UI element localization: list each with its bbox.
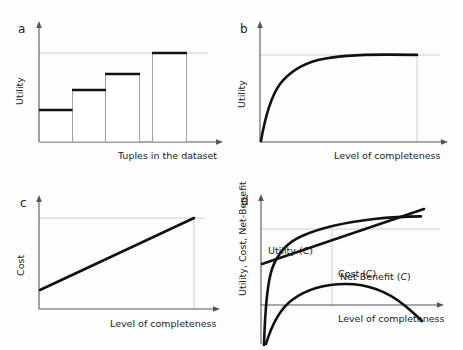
panel-a-plot: a Utility Tuples in the dataset (0, 0, 232, 175)
panel-d-x-axis-arrow (437, 302, 444, 308)
bar-1 (40, 110, 73, 142)
panel-c-x-axis-arrow (213, 306, 220, 312)
panel-b-plot: b Utility Level of completeness (228, 0, 463, 175)
bar-4 (153, 53, 187, 142)
panel-c-plot: c Cost Level of completeness (0, 172, 232, 350)
panel-c-letter: c (20, 196, 27, 210)
panel-c-cost-line (40, 218, 194, 290)
panel-c-y-label: Cost (15, 255, 26, 276)
bar-3 (106, 74, 140, 142)
panel-c-y-axis-arrow (36, 195, 42, 202)
panel-a-x-label: Tuples in the dataset (117, 150, 217, 161)
panel-a: a Utility Tuples in the dataset (0, 0, 232, 175)
panel-a-y-label: Utility (14, 77, 25, 105)
panel-c-x-label: Level of completeness (110, 318, 216, 329)
panel-a-x-axis-arrow (216, 139, 223, 145)
panel-b-y-axis-arrow (257, 21, 263, 28)
panel-d-plot: d Utility (C) Cost (C) Net Benefit (C) U… (228, 172, 463, 350)
panel-a-letter: a (18, 22, 25, 36)
panel-d-y-label: Utility, Cost, Net-Benefit (237, 181, 248, 296)
panel-d-utility-label: Utility (C) (268, 245, 313, 256)
panel-d-net-benefit-label: Net Benefit (C) (340, 271, 411, 282)
panel-c: c Cost Level of completeness (0, 172, 232, 350)
panel-d-y-axis-arrow (258, 194, 264, 201)
panel-d: d Utility (C) Cost (C) Net Benefit (C) U… (228, 172, 463, 350)
panel-b-x-label: Level of completeness (334, 150, 440, 161)
figure-canvas: a Utility Tuples in the dataset b (0, 0, 463, 350)
panel-d-x-label: Level of completeness (338, 313, 444, 324)
panel-b-y-label: Utility (236, 80, 247, 108)
panel-a-y-axis-arrow (36, 21, 42, 28)
panel-b-letter: b (240, 22, 248, 36)
panel-b-x-axis-arrow (441, 139, 448, 145)
panel-b-utility-curve (261, 55, 417, 141)
bar-2 (73, 90, 106, 142)
panel-b: b Utility Level of completeness (228, 0, 463, 175)
